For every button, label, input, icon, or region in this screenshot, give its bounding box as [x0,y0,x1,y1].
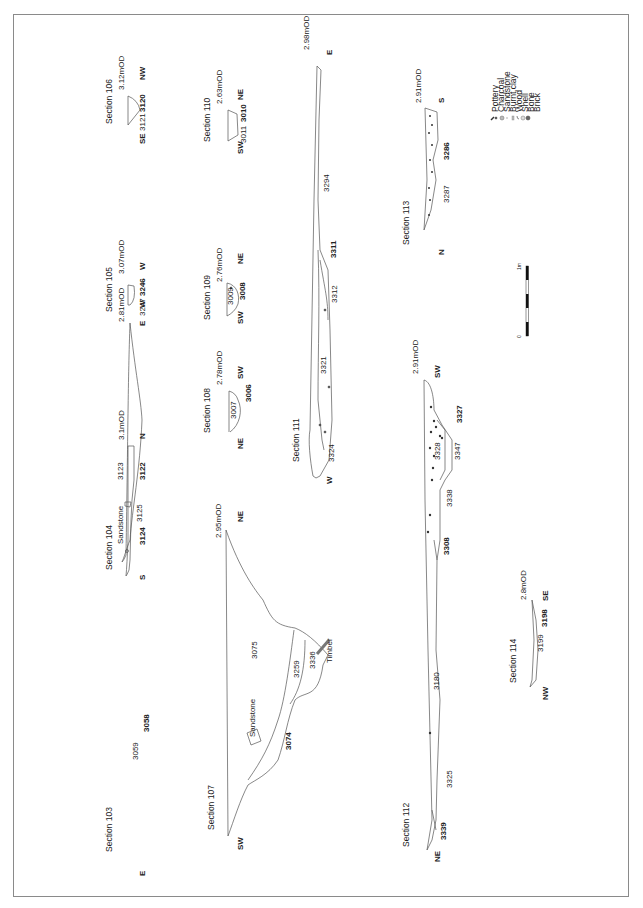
section-113-title: Section 113 [402,201,411,245]
section-103-dir-start: E [139,871,147,876]
section-107-context-3259: 3259 [293,660,301,678]
section-114-cut-3198: 3198 [541,609,549,627]
section-111-dir-end: E [326,50,334,55]
section-113-level: 2.91mOD [415,69,423,103]
section-104-level: 3.1mOD [118,410,126,440]
charcoal-icon [495,117,497,119]
section-107-cut-3074: 3074 [285,732,293,750]
bone-icon [521,116,525,120]
section-109-context-3009: 3009 [227,287,235,305]
section-105-title: Section 105 [105,267,114,312]
section-113-cut-3286: 3286 [443,142,451,160]
section-107-title: Section 107 [207,785,216,830]
section-113-dir-start: N [438,249,446,255]
section-110-dir-end: NE [237,89,245,100]
scale-end-label: 1m [517,263,522,270]
section-108-level: 2.78mOD [216,351,224,385]
section-104-context-3125: 3125 [136,504,144,522]
section-112-context-3347: 3347 [454,442,462,460]
section-108-context-3007: 3007 [230,401,238,419]
section-109-level: 2.76mOD [216,248,224,282]
section-112-dir-start: NE [434,851,442,862]
section-111-context-3321: 3321 [320,356,328,374]
section-111-context-3312: 3312 [331,285,339,303]
section-111-context-3324: 3324 [328,444,336,462]
section-103-title: Section 103 [105,807,114,852]
section-111-drawing [309,66,332,478]
section-107-context-3075: 3075 [251,641,259,659]
section-112-context-3325: 3325 [446,770,454,788]
section-114-level: 2.8mOD [520,570,528,600]
section-104-note-sandstone: Sandstone [117,506,125,544]
section-107-note-sandstone: Sandstone [249,699,257,737]
section-112-context-3328: 3328 [434,442,442,460]
section-108-dir-end: SW [237,366,245,379]
section-107-drawing [226,530,329,836]
section-103-level: 2.81mOD [118,288,126,322]
section-106-dir-start: SE [139,133,147,144]
section-114-dir-end: SE [542,590,550,601]
section-108-title: Section 108 [203,388,212,433]
section-111-title: Section 111 [292,418,301,462]
section-105-cut-3246: 3246 [139,278,147,296]
section-112-cut-3327: 3327 [456,405,464,423]
section-108-cut-3006: 3006 [245,384,253,402]
section-104-title: Section 104 [105,525,114,570]
section-109-title: Section 109 [203,275,212,320]
section-112-cut-3339: 3339 [440,822,448,840]
section-106-cut-3120: 3120 [139,94,147,112]
section-105-dir-start: E [139,321,147,326]
section-106-dir-end: NW [139,67,147,80]
section-109-cut-3008: 3008 [239,282,247,300]
wood-icon [512,116,514,120]
section-110-dir-start: SW [237,141,245,154]
section-114-title: Section 114 [509,639,518,683]
section-106-level: 3.12mOD [118,56,126,90]
section-112-level: 2.91mOD [412,340,420,374]
section-drawings [0,0,643,908]
section-104-context-3123: 3123 [117,462,125,480]
section-104-cut-3124: 3124 [139,527,147,545]
section-105-context-3247: 3247 [139,298,147,316]
pottery-icon [491,117,494,120]
brick-icon [526,116,530,120]
section-114-dir-start: NW [542,687,550,700]
section-110-drawing [228,110,238,141]
legend-brick: Brick [533,93,542,112]
section-111-dir-start: W [326,476,334,484]
section-113-drawing [424,108,438,230]
section-106-title: Section 106 [105,79,114,124]
section-103-cut-3058: 3058 [143,714,151,732]
shell-icon [517,116,519,119]
section-107-dir-end: NE [237,511,245,522]
section-107-context-3336: 3336 [309,651,317,669]
section-104-cut-3122: 3122 [139,462,147,480]
section-112-dir-end: SW [434,365,442,378]
section-104-dir-end: N [139,433,147,439]
section-113-context-3287: 3287 [443,185,451,203]
section-105-level: 3.07mOD [118,240,126,274]
legend-symbols [491,116,530,120]
section-104-dir-start: S [139,575,147,580]
section-105-drawing [128,285,135,305]
section-114-context-3199: 3199 [537,634,545,652]
section-110-title: Section 110 [203,98,212,142]
section-107-note-timber: Timber [326,638,334,663]
section-112-context-3180: 3180 [433,672,441,690]
section-105-dir-end: W [139,262,147,270]
section-107-dir-start: SW [237,837,245,850]
section-113-dir-end: S [438,98,446,103]
section-110-context-3011: 3011 [240,126,248,143]
section-111-level: 2.98mOD [303,16,311,50]
section-110-cut-3010: 3010 [240,104,248,122]
section-106-context-3121: 3121 [139,113,147,131]
section-107-level: 2.95mOD [215,504,223,538]
burnt-clay-icon [506,117,508,119]
section-112-context-3338: 3338 [446,489,454,507]
section-109-dir-end: NE [237,253,245,264]
scale-start-label: 0 [517,335,522,338]
section-103-context-3059: 3059 [132,742,140,760]
section-112-cut-3308: 3308 [443,537,451,555]
section-111-context-3294: 3294 [323,174,331,192]
section-111-cut-3311: 3311 [330,241,338,258]
